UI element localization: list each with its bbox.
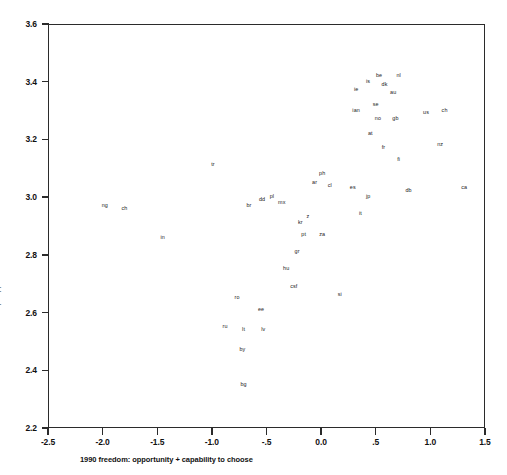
data-point-label: ph: [319, 171, 325, 176]
y-tick-mark: [42, 81, 49, 82]
x-tick-label: .5: [354, 437, 398, 447]
data-point-label: au: [390, 91, 396, 96]
data-point-label: be: [376, 73, 382, 78]
data-point-label: br: [247, 203, 252, 208]
data-point-label: in: [161, 235, 165, 240]
y-tick-label: 3.6: [7, 19, 37, 29]
data-point-label: cl: [328, 183, 332, 188]
y-tick-label: 2.8: [7, 250, 37, 260]
x-tick-mark: [430, 428, 431, 435]
x-tick-label: 0.0: [299, 437, 343, 447]
y-tick-mark: [42, 139, 49, 140]
x-tick-mark: [320, 428, 321, 435]
x-tick-label: 1.0: [408, 437, 452, 447]
data-point-label: lt: [242, 327, 245, 332]
data-point-label: nz: [437, 142, 443, 147]
x-tick-label: -.5: [245, 437, 289, 447]
x-tick-mark: [211, 428, 212, 435]
data-point-label: ca: [461, 186, 467, 191]
x-tick-label: -1.0: [190, 437, 234, 447]
data-point-label: nl: [396, 73, 400, 78]
scatter-chart-figure: 2.22.42.62.83.03.23.43.6 -2.5-2.0-1.5-1.…: [0, 0, 507, 475]
x-tick-label: 1.5: [463, 437, 507, 447]
x-tick-mark: [484, 428, 485, 435]
y-tick-label: 2.4: [7, 365, 37, 375]
y-tick-mark: [42, 254, 49, 255]
data-point-label: si: [338, 293, 342, 298]
data-point-label: bg: [240, 382, 246, 387]
data-point-label: pt: [301, 232, 306, 237]
x-tick-mark: [102, 428, 103, 435]
data-point-label: z: [307, 215, 310, 220]
data-point-label: us: [423, 111, 429, 116]
data-point-label: lv: [261, 327, 265, 332]
data-point-label: mx: [278, 200, 285, 205]
data-point-label: fi: [397, 157, 400, 162]
data-point-label: ru: [222, 324, 227, 329]
data-point-label: za: [319, 232, 325, 237]
y-tick-mark: [42, 370, 49, 371]
data-point-label: it: [359, 212, 362, 217]
data-point-label: se: [373, 102, 379, 107]
data-point-label: ian: [352, 108, 360, 113]
x-tick-mark: [266, 428, 267, 435]
y-tick-mark: [42, 196, 49, 197]
data-point-label: ie: [354, 88, 358, 93]
x-tick-label: -1.5: [135, 437, 179, 447]
data-point-label: ar: [312, 180, 317, 185]
x-tick-mark: [47, 428, 48, 435]
x-tick-mark: [375, 428, 376, 435]
data-point-label: is: [366, 79, 370, 84]
data-point-label: jp: [366, 194, 370, 199]
data-point-label: ee: [258, 307, 264, 312]
data-point-label: by: [240, 347, 246, 352]
y-tick-label: 3.2: [7, 134, 37, 144]
data-point-label: ng: [102, 203, 108, 208]
y-tick-label: 3.0: [7, 192, 37, 202]
data-point-label: hu: [283, 267, 289, 272]
data-point-label: dd: [259, 197, 265, 202]
data-point-label: at: [368, 131, 373, 136]
data-point-label: ch: [122, 206, 128, 211]
plot-area: [48, 24, 485, 428]
y-tick-label: 2.2: [7, 423, 37, 433]
data-point-label: ch: [442, 108, 448, 113]
x-tick-label: -2.5: [26, 437, 70, 447]
y-tick-mark: [42, 312, 49, 313]
x-tick-mark: [157, 428, 158, 435]
data-point-label: pl: [270, 194, 274, 199]
x-tick-label: -2.0: [81, 437, 125, 447]
y-tick-mark: [42, 23, 49, 24]
data-point-label: dk: [382, 82, 388, 87]
data-point-label: es: [350, 186, 356, 191]
data-point-label: fr: [382, 145, 386, 150]
x-axis-title: 1990 freedom: opportunity + capability t…: [80, 455, 253, 464]
data-point-label: ro: [235, 295, 240, 300]
data-point-label: no: [375, 117, 381, 122]
data-point-label: gb: [392, 117, 398, 122]
data-point-label: kr: [298, 220, 303, 225]
y-tick-label: 3.4: [7, 77, 37, 87]
data-point-label: tr: [211, 163, 215, 168]
y-tick-label: 2.6: [7, 308, 37, 318]
data-point-label: gr: [295, 249, 300, 254]
data-point-label: csf: [290, 284, 297, 289]
data-point-label: db: [405, 189, 411, 194]
